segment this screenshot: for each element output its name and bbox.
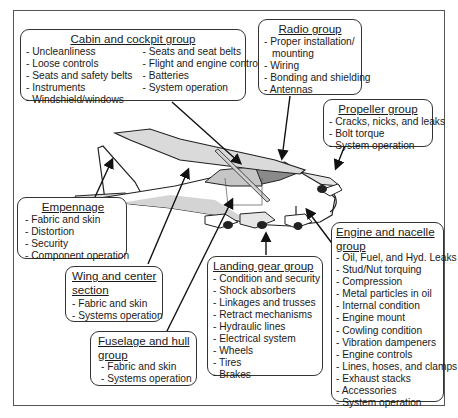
list-item: - Condition and security: [213, 273, 317, 285]
propeller-group-box: Propeller group - Cracks, nicks, and lea…: [323, 99, 433, 147]
list-item: - Wiring: [264, 60, 356, 72]
radio-items: - Proper installation/ mounting - Wiring…: [264, 36, 356, 96]
list-item: - Bolt torque: [329, 128, 427, 140]
list-item: - Accessories: [336, 385, 438, 397]
landing-gear-items: - Condition and security - Shock absorbe…: [213, 273, 317, 382]
list-item: - Systems operation: [72, 310, 157, 322]
list-item: - Internal condition: [336, 300, 438, 312]
empennage-items: - Fabric and skin - Distortion - Securit…: [25, 214, 121, 262]
list-item: - Retract mechanisms: [213, 309, 317, 321]
list-item: - Uncleanliness: [26, 46, 132, 58]
list-item: - Fabric and skin: [101, 361, 191, 373]
list-item: - Wheels: [213, 345, 317, 357]
landing-gear-title: Landing gear group: [213, 259, 317, 273]
fuselage-title-line2: group: [98, 348, 191, 362]
wing-items: - Fabric and skin - Systems operation: [72, 298, 157, 322]
empennage-group-box: Empennage - Fabric and skin - Distortion…: [17, 197, 127, 259]
list-item: - Batteries: [142, 70, 265, 82]
engine-items: - Oil, Fuel, and Hyd. Leaks - Stud/Nut t…: [336, 252, 438, 409]
wing-center-group-box: Wing and center section - Fabric and ski…: [65, 266, 163, 322]
list-item: - Compression: [336, 276, 438, 288]
list-item: - Brakes: [213, 369, 317, 381]
list-item: - Instruments: [26, 82, 132, 94]
list-item: - System operation: [329, 140, 427, 152]
list-item: - Electrical system: [213, 333, 317, 345]
list-item: - Stud/Nut torquing: [336, 264, 438, 276]
list-item: - Fabric and skin: [25, 214, 121, 226]
list-item: - Cracks, nicks, and leaks: [329, 116, 427, 128]
list-item: - Hydraulic lines: [213, 321, 317, 333]
list-item: - Vibration dampeners: [336, 337, 438, 349]
list-item: - Fabric and skin: [72, 298, 157, 310]
list-item: - Component operation: [25, 250, 121, 262]
list-item: - Proper installation/: [264, 36, 356, 48]
list-item: - Seats and safety belts: [26, 70, 132, 82]
cabin-cockpit-group-box: Cabin and cockpit group - Uncleanliness …: [20, 29, 246, 101]
wing-title-line1: Wing and center: [72, 269, 157, 283]
list-item: - Lines, hoses, and clamps: [336, 361, 438, 373]
list-item: - System operation: [336, 397, 438, 409]
list-item: - Shock absorbers: [213, 285, 317, 297]
list-item: - Linkages and trusses: [213, 297, 317, 309]
list-item: - System operation: [142, 82, 265, 94]
landing-gear-group-box: Landing gear group - Condition and secur…: [207, 256, 323, 376]
wing-title-line2: section: [72, 283, 157, 297]
list-item: - Loose controls: [26, 58, 132, 70]
list-item: - Exhaust stacks: [336, 373, 438, 385]
engine-nacelle-group-box: Engine and nacelle group - Oil, Fuel, an…: [331, 222, 444, 402]
engine-title-line2: group: [336, 239, 438, 253]
radio-group-box: Radio group - Proper installation/ mount…: [258, 19, 362, 95]
propeller-title: Propeller group: [329, 102, 427, 116]
list-item: - Oil, Fuel, and Hyd. Leaks: [336, 252, 438, 264]
fuselage-items: - Fabric and skin - Systems operation: [98, 361, 191, 385]
cabin-items-col2: - Seats and seat belts - Flight and engi…: [142, 46, 265, 106]
list-item: - Engine controls: [336, 349, 438, 361]
radio-title: Radio group: [264, 22, 356, 36]
list-item: - Windshield/windows: [26, 94, 132, 106]
cabin-cockpit-title: Cabin and cockpit group: [26, 32, 240, 46]
list-item: - Cowling condition: [336, 325, 438, 337]
propeller-items: - Cracks, nicks, and leaks - Bolt torque…: [329, 116, 427, 152]
fuselage-title-line1: Fuselage and hull: [98, 334, 191, 348]
list-item: - Tires: [213, 357, 317, 369]
list-item: - Security: [25, 238, 121, 250]
list-item: - Seats and seat belts: [142, 46, 265, 58]
list-item: - Systems operation: [101, 373, 191, 385]
list-item: - Engine mount: [336, 312, 438, 324]
list-item: - Bonding and shielding: [264, 72, 356, 84]
list-item: - Flight and engine controls: [142, 58, 265, 70]
list-item: - Metal particles in oil: [336, 288, 438, 300]
empennage-title: Empennage: [25, 200, 121, 214]
cabin-items-col1: - Uncleanliness - Loose controls - Seats…: [26, 46, 132, 106]
list-item: - Antennas: [264, 84, 356, 96]
list-item: mounting: [264, 48, 356, 60]
engine-title-line1: Engine and nacelle: [336, 225, 438, 239]
fuselage-hull-group-box: Fuselage and hull group - Fabric and ski…: [90, 331, 197, 386]
list-item: - Distortion: [25, 226, 121, 238]
